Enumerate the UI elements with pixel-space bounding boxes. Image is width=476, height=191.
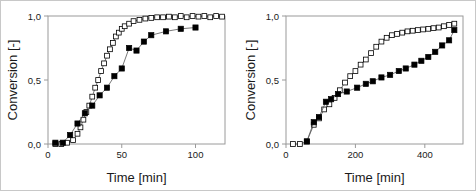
data-point-filled-square [90,103,95,108]
data-point-filled-square [370,79,375,84]
data-point-open-square [99,69,104,74]
data-point-open-square [161,15,166,20]
x-tick-label: 0 [283,149,288,160]
chart-svg-right: 0,00,51,00200400Time [min]Conversion [-] [239,1,476,190]
data-point-open-square [421,27,426,32]
data-point-open-square [190,14,195,19]
data-point-filled-square [412,62,417,67]
data-point-filled-square [440,43,445,48]
figure-container: 0,00,51,0050100Time [min]Conversion [-] … [0,0,476,191]
data-point-open-square [374,44,379,49]
data-point-filled-square [53,140,58,145]
data-point-filled-square [60,140,65,145]
data-point-open-square [442,24,447,29]
data-point-open-square [452,21,457,26]
data-point-filled-square [388,72,393,77]
y-tick-label: 0,5 [266,75,279,86]
data-point-open-square [149,16,154,21]
data-point-open-square [155,15,160,20]
data-point-open-square [137,17,142,22]
data-point-filled-square [363,81,368,86]
data-point-open-square [105,53,110,58]
data-point-filled-square [355,85,360,90]
data-point-open-square [400,30,405,35]
y-tick-label: 0,0 [28,139,41,150]
data-point-open-square [358,62,363,67]
data-point-open-square [363,57,368,62]
data-point-filled-square [304,139,309,144]
data-point-open-square [426,26,431,31]
data-point-open-square [184,15,189,20]
data-point-open-square [384,35,389,40]
data-point-filled-square [323,99,328,104]
data-point-filled-square [419,58,424,63]
data-point-filled-square [149,33,154,38]
y-axis-label: Conversion [-] [5,40,20,121]
chart-panel-right: 0,00,51,00200400Time [min]Conversion [-] [239,1,476,190]
data-point-open-square [297,142,302,147]
data-point-open-square [143,16,148,21]
data-point-open-square [405,29,410,34]
data-point-open-square [291,142,296,147]
data-point-filled-square [97,93,102,98]
data-point-filled-square [127,45,132,50]
data-point-open-square [348,74,353,79]
data-point-open-square [108,47,113,52]
data-point-filled-square [311,120,316,125]
data-point-filled-square [433,49,438,54]
data-point-filled-square [447,38,452,43]
data-point-filled-square [329,97,334,102]
data-point-filled-square [426,54,431,59]
data-point-open-square [214,14,219,19]
data-point-filled-square [178,26,183,31]
data-point-open-square [167,14,172,19]
data-point-open-square [172,15,177,20]
series-line-filled-squares [307,30,455,141]
data-point-open-square [343,80,348,85]
data-point-open-square [410,28,415,33]
data-point-filled-square [396,68,401,73]
data-point-open-square [93,85,98,90]
y-axis-label: Conversion [-] [243,40,258,121]
x-tick-label: 400 [417,149,433,160]
y-tick-label: 0,0 [266,139,279,150]
data-point-filled-square [141,39,146,44]
x-tick-label: 50 [116,149,127,160]
data-point-filled-square [119,66,124,71]
data-point-open-square [379,39,384,44]
data-point-open-square [178,14,183,19]
data-point-filled-square [344,89,349,94]
data-point-open-square [447,23,452,28]
data-point-open-square [111,40,116,45]
data-point-filled-square [193,25,198,30]
data-point-open-square [436,25,441,30]
data-point-open-square [220,14,225,19]
data-point-open-square [431,26,436,31]
data-point-open-square [208,15,213,20]
data-point-open-square [96,78,101,83]
data-point-filled-square [104,85,109,90]
x-tick-label: 100 [188,149,204,160]
x-tick-label: 0 [45,149,50,160]
data-point-filled-square [403,66,408,71]
y-tick-label: 1,0 [28,11,41,22]
data-point-open-square [415,28,420,33]
data-point-filled-square [75,121,80,126]
data-point-filled-square [316,115,321,120]
data-point-filled-square [335,91,340,96]
data-point-filled-square [112,74,117,79]
data-point-open-square [131,19,136,24]
data-point-open-square [389,33,394,38]
data-point-filled-square [379,75,384,80]
data-point-open-square [353,69,358,74]
data-point-open-square [196,14,201,19]
x-tick-label: 200 [347,149,363,160]
y-tick-label: 1,0 [266,11,279,22]
data-point-open-square [90,94,95,99]
data-point-open-square [202,14,207,19]
data-point-filled-square [68,132,73,137]
chart-svg-left: 0,00,51,0050100Time [min]Conversion [-] [1,1,239,190]
data-point-open-square [75,131,80,136]
x-axis-label: Time [min] [344,170,404,185]
y-tick-label: 0,5 [28,75,41,86]
